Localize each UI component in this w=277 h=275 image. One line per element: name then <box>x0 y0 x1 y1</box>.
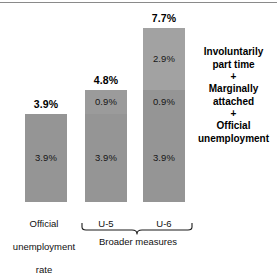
legend-line-attached: attached <box>190 96 277 109</box>
bar-u6[interactable]: 7.7% 2.9% 0.9% 3.9% <box>143 28 185 202</box>
segment-label-marginal-2: 0.9% <box>95 97 117 107</box>
bar-segment-marginally-attached-3[interactable]: 0.9% <box>143 90 185 114</box>
source-note-clipped <box>8 254 208 263</box>
legend-line-marginally: Marginally <box>190 83 277 96</box>
segment-label-official-2: 3.9% <box>95 153 117 163</box>
segment-label-official-1: 3.9% <box>35 153 57 163</box>
bar-total-label-3: 7.7% <box>152 12 176 24</box>
category-label-official-line3: rate <box>36 264 52 275</box>
bar-segment-marginally-attached-2[interactable]: 0.9% <box>85 90 127 114</box>
category-label-official-line2: unemployment <box>13 241 75 252</box>
legend-line-unemployment: unemployment <box>190 133 277 146</box>
bar-u5[interactable]: 4.8% 0.9% 3.9% <box>85 90 127 202</box>
broader-measures-brace <box>80 223 194 235</box>
bar-segment-involuntary-part-time-3[interactable]: 2.9% <box>143 28 185 90</box>
legend-line-official: Official <box>190 120 277 133</box>
bar-official-unemployment[interactable]: 3.9% 3.9% <box>25 114 67 202</box>
legend-annotation: Involuntarily part time + Marginally att… <box>190 46 277 145</box>
bar-segment-official-3[interactable]: 3.9% <box>143 114 185 202</box>
bar-total-label-1: 3.9% <box>34 98 58 110</box>
segment-label-involuntary-3: 2.9% <box>153 54 175 64</box>
bar-segment-official-2[interactable]: 3.9% <box>85 114 127 202</box>
segment-label-official-3: 3.9% <box>153 153 175 163</box>
bar-segment-official-1[interactable]: 3.9% <box>25 114 67 202</box>
legend-line-part-time: part time <box>190 59 277 72</box>
segment-label-marginal-3: 0.9% <box>153 97 175 107</box>
category-label-official-line1: Official <box>30 218 59 229</box>
legend-plus-1: + <box>190 71 277 83</box>
bar-total-label-2: 4.8% <box>94 74 118 86</box>
legend-line-involuntarily: Involuntarily <box>190 46 277 59</box>
broader-measures-label: Broader measures <box>70 236 206 247</box>
legend-plus-2: + <box>190 108 277 120</box>
